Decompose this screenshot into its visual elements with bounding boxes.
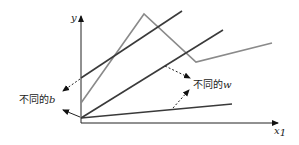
y-axis-label: y [70,12,77,23]
axes [81,16,278,123]
function-lines [81,11,272,118]
dark-line-origin-shallow [81,104,232,118]
x-axis-label: x1 [274,125,286,138]
diagram-canvas: y x1 不同的b 不同的w [0,0,299,145]
label-different-b: 不同的b [19,93,55,105]
dashed-arrow-w-upper [165,66,190,78]
dashed-arrow-b [63,79,80,91]
solid-arrow-b [63,110,80,117]
label-different-w: 不同的w [193,78,232,90]
dashed-arrow-w-lower [173,90,189,108]
dark-line-high-intercept [81,11,182,78]
